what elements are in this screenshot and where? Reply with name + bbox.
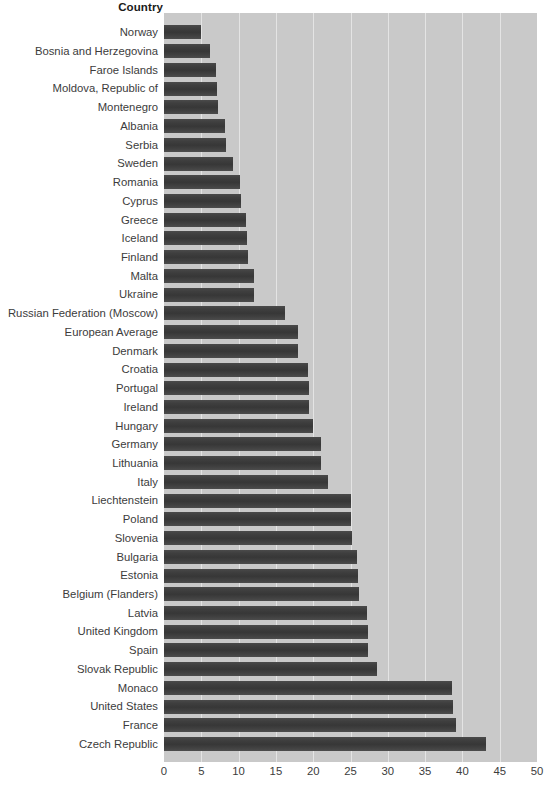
- bar-row: Slovenia: [0, 529, 550, 548]
- bar-category-label: Denmark: [0, 344, 158, 358]
- bar-category-label: Belgium (Flanders): [0, 587, 158, 601]
- bar-category-label: Russian Federation (Moscow): [0, 306, 158, 320]
- x-axis-tick-label: 20: [293, 765, 333, 777]
- bar-category-label: Spain: [0, 643, 158, 657]
- bar-row: Serbia: [0, 136, 550, 155]
- bar: [164, 306, 285, 320]
- bar-row: Montenegro: [0, 98, 550, 117]
- x-axis: 05101520253035404550: [0, 762, 550, 792]
- bar-row: Greece: [0, 211, 550, 230]
- bar: [164, 44, 210, 58]
- bar-row: Bulgaria: [0, 548, 550, 567]
- bar-row: United Kingdom: [0, 622, 550, 641]
- bar-row: Monaco: [0, 679, 550, 698]
- bar-row: Iceland: [0, 229, 550, 248]
- horizontal-bar-chart: Country NorwayBosnia and HerzegovinaFaro…: [0, 0, 550, 795]
- bar-category-label: Monaco: [0, 681, 158, 695]
- bar-category-label: Greece: [0, 213, 158, 227]
- bar: [164, 363, 308, 377]
- bar-row: Hungary: [0, 417, 550, 436]
- bar-category-label: United States: [0, 699, 158, 713]
- x-axis-tick-label: 50: [517, 765, 550, 777]
- bar-category-label: Moldova, Republic of: [0, 81, 158, 95]
- bar-row: Croatia: [0, 360, 550, 379]
- bar: [164, 82, 217, 96]
- x-axis-tick-label: 5: [181, 765, 221, 777]
- bar-rows: NorwayBosnia and HerzegovinaFaroe Island…: [0, 13, 550, 762]
- bar: [164, 681, 452, 695]
- bar-row: France: [0, 716, 550, 735]
- bar-row: European Average: [0, 323, 550, 342]
- bar: [164, 138, 226, 152]
- column-header-country: Country: [0, 1, 163, 13]
- bar-row: Slovak Republic: [0, 660, 550, 679]
- bar: [164, 194, 241, 208]
- bar: [164, 25, 201, 39]
- bar-category-label: Faroe Islands: [0, 63, 158, 77]
- bar-row: Faroe Islands: [0, 61, 550, 80]
- bar: [164, 550, 357, 564]
- bar-category-label: Cyprus: [0, 194, 158, 208]
- bar: [164, 250, 248, 264]
- bar: [164, 625, 368, 639]
- bar-category-label: Germany: [0, 437, 158, 451]
- bar-row: Lithuania: [0, 454, 550, 473]
- bar: [164, 325, 298, 339]
- bar-row: Bosnia and Herzegovina: [0, 42, 550, 61]
- bar: [164, 718, 456, 732]
- bar: [164, 700, 453, 714]
- bar-category-label: Portugal: [0, 381, 158, 395]
- bar-category-label: France: [0, 718, 158, 732]
- bar: [164, 587, 359, 601]
- bar: [164, 381, 309, 395]
- bar: [164, 63, 216, 77]
- bar-category-label: Liechtenstein: [0, 493, 158, 507]
- bar-row: Ireland: [0, 398, 550, 417]
- bar-row: Albania: [0, 117, 550, 136]
- bar-row: Spain: [0, 641, 550, 660]
- bar-category-label: Italy: [0, 475, 158, 489]
- bar-category-label: Finland: [0, 250, 158, 264]
- bar: [164, 344, 298, 358]
- bar-category-label: Slovak Republic: [0, 662, 158, 676]
- x-axis-tick-label: 40: [442, 765, 482, 777]
- bar: [164, 100, 218, 114]
- bar-row: Belgium (Flanders): [0, 585, 550, 604]
- bar-row: Ukraine: [0, 285, 550, 304]
- bar-category-label: Latvia: [0, 606, 158, 620]
- bar-row: Cyprus: [0, 192, 550, 211]
- bar-category-label: Estonia: [0, 568, 158, 582]
- bar: [164, 175, 240, 189]
- bar-category-label: Serbia: [0, 138, 158, 152]
- bar-row: Finland: [0, 248, 550, 267]
- bar-category-label: Poland: [0, 512, 158, 526]
- bar: [164, 419, 313, 433]
- x-axis-tick-label: 15: [256, 765, 296, 777]
- bar-row: Denmark: [0, 342, 550, 361]
- x-axis-tick-label: 25: [331, 765, 371, 777]
- bar-row: United States: [0, 697, 550, 716]
- x-axis-tick-label: 45: [480, 765, 520, 777]
- bar-category-label: Bosnia and Herzegovina: [0, 44, 158, 58]
- bar-row: Norway: [0, 23, 550, 42]
- x-axis-tick-label: 35: [405, 765, 445, 777]
- bar-category-label: Sweden: [0, 156, 158, 170]
- bar-category-label: European Average: [0, 325, 158, 339]
- bar-category-label: Montenegro: [0, 100, 158, 114]
- bar-row: Malta: [0, 267, 550, 286]
- bar: [164, 662, 377, 676]
- bar: [164, 531, 352, 545]
- bar: [164, 569, 358, 583]
- bar: [164, 400, 309, 414]
- bar: [164, 456, 321, 470]
- bar-row: Liechtenstein: [0, 491, 550, 510]
- bar-row: Sweden: [0, 154, 550, 173]
- bar-row: Germany: [0, 435, 550, 454]
- bar: [164, 606, 367, 620]
- bar-row: Romania: [0, 173, 550, 192]
- bar-category-label: Slovenia: [0, 531, 158, 545]
- bar-row: Poland: [0, 510, 550, 529]
- bar-category-label: Ireland: [0, 400, 158, 414]
- bar-category-label: Norway: [0, 25, 158, 39]
- bar-category-label: Albania: [0, 119, 158, 133]
